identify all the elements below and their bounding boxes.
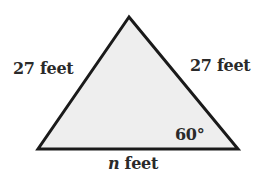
base-length-label: n feet bbox=[108, 156, 158, 172]
base-variable: n bbox=[108, 154, 119, 173]
right-side-length-label: 27 feet bbox=[190, 58, 250, 74]
triangle-polygon bbox=[38, 17, 238, 149]
base-unit: feet bbox=[119, 154, 158, 173]
angle-label: 60° bbox=[175, 127, 204, 143]
left-side-length-label: 27 feet bbox=[13, 61, 73, 77]
triangle-shape bbox=[0, 0, 260, 179]
